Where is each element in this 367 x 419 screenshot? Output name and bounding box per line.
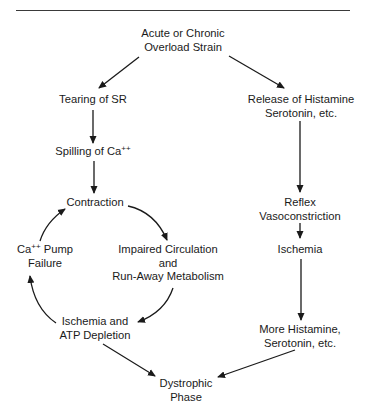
node-text-line: and: [112, 257, 224, 271]
node-ca-pump-failure: Ca++ Pump Failure: [17, 243, 73, 270]
arrow-pump-failure-to-contraction: [40, 209, 65, 241]
node-release-histamine: Release of Histamine Serotonin, etc.: [248, 93, 354, 120]
node-text-line: Overload Strain: [141, 41, 224, 55]
arrow-impaired-to-ischemia-atp: [138, 288, 173, 322]
node-dystrophic-phase: Dystrophic Phase: [160, 377, 213, 404]
arrow-overload-to-tearing: [99, 57, 139, 88]
node-text-line: Dystrophic: [160, 377, 213, 391]
node-text-line: Tearing of SR: [59, 93, 127, 107]
pump-suffix: Pump: [41, 243, 73, 255]
spilling-text: Spilling of Ca: [55, 145, 121, 157]
node-text-line: Run-Away Metabolism: [112, 270, 224, 284]
node-tearing-of-sr: Tearing of SR: [59, 93, 127, 107]
node-text-line: Ischemia and: [59, 315, 130, 329]
node-text-line: Release of Histamine: [248, 93, 354, 107]
node-contraction: Contraction: [66, 196, 123, 210]
arrow-ischemia-atp-to-pump-failure: [30, 276, 56, 323]
node-text-line: ATP Depletion: [59, 329, 130, 343]
node-text-line: Vasoconstriction: [259, 210, 340, 224]
node-text-line: Serotonin, etc.: [248, 107, 354, 121]
node-text-line: Acute or Chronic: [141, 27, 224, 41]
node-text-line: More Histamine,: [259, 323, 340, 337]
node-reflex-vasoconstriction: Reflex Vasoconstriction: [259, 196, 340, 223]
node-text-line: Ca++ Pump: [17, 243, 73, 257]
node-ischemia-atp-depletion: Ischemia and ATP Depletion: [59, 315, 130, 342]
node-text-line: Failure: [17, 257, 73, 271]
node-text-line: Ischemia: [278, 243, 323, 257]
node-text-line: Serotonin, etc.: [259, 337, 340, 351]
arrow-more-histamine-to-dystrophic: [218, 350, 295, 377]
node-overload-strain: Acute or Chronic Overload Strain: [141, 27, 224, 54]
arrow-ischemia-atp-to-dystrophic: [103, 344, 155, 376]
node-text-line: Reflex: [259, 196, 340, 210]
node-impaired-circulation: Impaired Circulation and Run-Away Metabo…: [112, 243, 224, 284]
arrow-contraction-to-impaired: [128, 206, 167, 240]
node-text-line: Phase: [160, 391, 213, 405]
node-text-line: Contraction: [66, 196, 123, 210]
node-ischemia-right: Ischemia: [278, 243, 323, 257]
arrow-overload-to-release: [229, 56, 284, 88]
node-spilling-of-ca: Spilling of Ca++: [55, 145, 130, 159]
node-more-histamine: More Histamine, Serotonin, etc.: [259, 323, 340, 350]
ca-prefix: Ca: [17, 243, 31, 255]
node-text-line: Spilling of Ca++: [55, 145, 130, 159]
node-text-line: Impaired Circulation: [112, 243, 224, 257]
superscript-charge: ++: [121, 144, 130, 153]
superscript-charge: ++: [31, 242, 40, 251]
